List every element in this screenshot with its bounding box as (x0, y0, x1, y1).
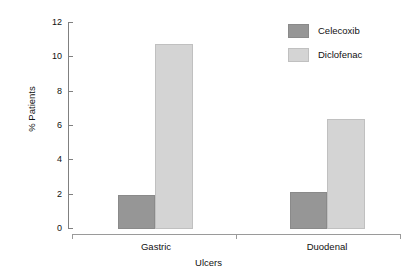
x-axis-tick-start (72, 234, 73, 239)
y-axis-tick-10 (68, 56, 73, 57)
y-axis-label-2: 2 (36, 190, 62, 199)
y-axis-label-6-wrap: 6 (36, 121, 62, 130)
x-axis-tick-middle (236, 234, 237, 239)
y-axis-label-12: 12 (36, 18, 62, 27)
legend-swatch-diclofenac (288, 48, 309, 62)
x-axis-group-label-duodenal: Duodenal (287, 242, 367, 252)
y-axis-label-12-wrap: 12 (36, 18, 62, 27)
y-axis-title: % Patients (27, 69, 37, 149)
y-axis-tick-6 (68, 125, 73, 126)
y-axis-label-0-wrap: 0 (36, 224, 62, 233)
y-axis-tick-0 (68, 228, 73, 229)
legend-label-diclofenac: Diclofenac (318, 50, 362, 60)
y-axis-label-4: 4 (36, 155, 62, 164)
y-axis-tick-4 (68, 159, 73, 160)
bar-duodenal-diclofenac (327, 119, 365, 229)
bar-gastric-celecoxib (118, 195, 155, 230)
y-axis-label-0: 0 (36, 224, 62, 233)
y-axis-label-10-wrap: 10 (36, 52, 62, 61)
bar-gastric-diclofenac (155, 44, 193, 229)
x-axis-title: Ulcers (0, 258, 417, 268)
y-axis-label-10: 10 (36, 52, 62, 61)
y-axis-label-2-wrap: 2 (36, 190, 62, 199)
y-axis-tick-12 (68, 22, 73, 23)
y-axis-label-6: 6 (36, 121, 62, 130)
legend-swatch-celecoxib (288, 24, 309, 38)
y-axis-tick-2 (68, 194, 73, 195)
x-axis-tick-end (400, 234, 401, 239)
y-axis-label-4-wrap: 4 (36, 155, 62, 164)
y-axis-tick-8 (68, 91, 73, 92)
y-axis-label-8-wrap: 8 (36, 87, 62, 96)
bar-duodenal-celecoxib (290, 192, 327, 229)
x-axis-group-label-gastric: Gastric (116, 242, 196, 252)
legend-label-celecoxib: Celecoxib (318, 26, 360, 36)
y-axis-label-8: 8 (36, 87, 62, 96)
bar-chart: 12 10 8 6 4 2 0 % Patients Gastric Duode… (0, 0, 417, 279)
